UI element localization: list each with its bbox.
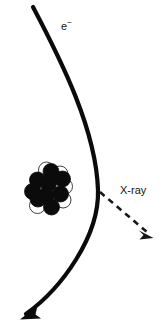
electron-arrowhead xyxy=(20,306,41,320)
electron-label: e− xyxy=(61,18,72,32)
electron-label-superscript: − xyxy=(67,18,72,27)
xray-photon-group xyxy=(100,192,154,240)
electron-trajectory-group xyxy=(20,7,98,320)
bremsstrahlung-diagram: e− X-ray xyxy=(0,0,163,331)
nucleon-neutron xyxy=(44,199,60,215)
nucleon-neutron xyxy=(55,171,71,187)
xray-label: X-ray xyxy=(120,184,147,196)
xray-photon-path xyxy=(100,192,147,232)
xray-arrowhead xyxy=(139,231,154,240)
electron-trajectory-path xyxy=(26,7,98,314)
diagram-canvas: e− X-ray xyxy=(0,0,163,331)
atomic-nucleus xyxy=(25,162,73,215)
